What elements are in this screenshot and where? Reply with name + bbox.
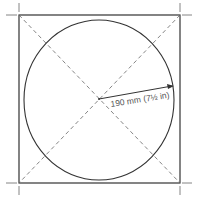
circle-in-square-diagram: 190 mm (7½ in)	[0, 0, 197, 201]
radius-label: 190 mm (7½ in)	[110, 90, 171, 109]
